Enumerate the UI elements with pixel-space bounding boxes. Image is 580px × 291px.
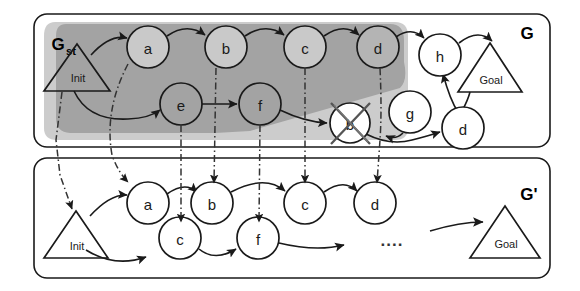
node-top-d: d: [357, 26, 399, 68]
node-top-g: g: [389, 91, 431, 133]
subgraph-label-main: G: [51, 35, 64, 54]
node-top-c-label: c: [301, 40, 309, 57]
bottom-init-label: Init: [70, 240, 85, 252]
node-top-e-label: e: [177, 97, 185, 114]
node-top-d2: d: [442, 107, 484, 149]
node-top-c: c: [284, 26, 326, 68]
node-top-b-label: b: [222, 40, 230, 57]
panel-top-label: G: [520, 24, 533, 43]
node-top-b: b: [205, 26, 247, 68]
node-top-a: a: [127, 26, 169, 68]
node-top-d-label: d: [374, 40, 382, 57]
node-top-h-label: h: [436, 48, 444, 65]
node-top-h: h: [419, 34, 461, 76]
panel-top: G G st Init Goal: [34, 14, 550, 149]
node-bottom-c: c: [284, 182, 326, 224]
top-goal-label: Goal: [479, 74, 502, 86]
node-top-g-label: g: [406, 105, 414, 122]
node-bottom-d: d: [354, 182, 396, 224]
node-top-e: e: [160, 83, 202, 125]
node-bottom-c-label: c: [301, 196, 309, 213]
node-bottom-f: f: [237, 217, 279, 259]
ellipsis-marker: ....: [381, 231, 404, 250]
node-top-f: f: [239, 83, 281, 125]
diagram-canvas: G G st Init Goal: [0, 0, 580, 291]
node-bottom-d-label: d: [371, 196, 379, 213]
node-bottom-b-label: b: [208, 196, 216, 213]
node-bottom-a-label: a: [144, 196, 153, 213]
node-bottom-b: b: [191, 182, 233, 224]
panel-bottom-label: G': [520, 185, 537, 204]
node-bottom-c2: c: [159, 217, 201, 259]
node-bottom-c2-label: c: [176, 231, 184, 248]
node-top-b-crossed: b: [330, 103, 370, 144]
node-bottom-a: a: [127, 182, 169, 224]
bottom-goal-label: Goal: [494, 238, 517, 250]
node-top-a-label: a: [144, 40, 153, 57]
node-top-d2-label: d: [459, 121, 467, 138]
figure-root: G G st Init Goal: [0, 0, 580, 291]
top-init-label: Init: [71, 72, 86, 84]
panel-bottom: G' Init Goal: [34, 158, 550, 278]
